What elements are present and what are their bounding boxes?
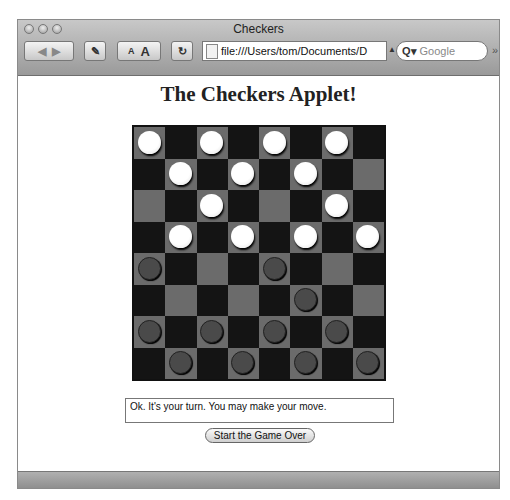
search-icon[interactable]: Q▾	[402, 45, 417, 58]
board-square[interactable]	[322, 127, 353, 159]
black-checker-piece[interactable]	[138, 257, 161, 280]
board-square[interactable]	[322, 253, 353, 285]
reload-button[interactable]: ↻	[171, 41, 193, 61]
white-checker-piece[interactable]	[356, 225, 379, 248]
board-square[interactable]	[353, 348, 384, 380]
board-square[interactable]	[322, 285, 353, 317]
board-square[interactable]	[228, 190, 259, 222]
white-checker-piece[interactable]	[263, 131, 286, 154]
board-square[interactable]	[228, 316, 259, 348]
board-square[interactable]	[197, 127, 228, 159]
board-square[interactable]	[259, 222, 290, 254]
board-square[interactable]	[134, 190, 165, 222]
black-checker-piece[interactable]	[263, 320, 286, 343]
board-square[interactable]	[228, 253, 259, 285]
board-square[interactable]	[197, 253, 228, 285]
board-square[interactable]	[228, 285, 259, 317]
board-square[interactable]	[353, 253, 384, 285]
board-square[interactable]	[165, 316, 196, 348]
board-square[interactable]	[290, 285, 321, 317]
white-checker-piece[interactable]	[169, 225, 192, 248]
board-square[interactable]	[322, 316, 353, 348]
white-checker-piece[interactable]	[294, 225, 317, 248]
board-square[interactable]	[353, 316, 384, 348]
black-checker-piece[interactable]	[200, 320, 223, 343]
board-square[interactable]	[322, 348, 353, 380]
board-square[interactable]	[290, 190, 321, 222]
board-square[interactable]	[197, 316, 228, 348]
start-game-over-button[interactable]: Start the Game Over	[205, 428, 315, 443]
board-square[interactable]	[197, 222, 228, 254]
board-square[interactable]	[353, 127, 384, 159]
board-square[interactable]	[290, 316, 321, 348]
board-square[interactable]	[165, 222, 196, 254]
board-square[interactable]	[228, 127, 259, 159]
white-checker-piece[interactable]	[325, 131, 348, 154]
board-square[interactable]	[134, 285, 165, 317]
board-square[interactable]	[197, 285, 228, 317]
white-checker-piece[interactable]	[325, 194, 348, 217]
board-square[interactable]	[259, 316, 290, 348]
black-checker-piece[interactable]	[263, 257, 286, 280]
white-checker-piece[interactable]	[231, 225, 254, 248]
board-square[interactable]	[259, 253, 290, 285]
text-smaller-icon[interactable]: A	[128, 46, 135, 56]
board-square[interactable]	[259, 190, 290, 222]
black-checker-piece[interactable]	[356, 351, 379, 374]
board-square[interactable]	[134, 348, 165, 380]
board-square[interactable]	[353, 285, 384, 317]
white-checker-piece[interactable]	[169, 162, 192, 185]
board-square[interactable]	[353, 222, 384, 254]
board-square[interactable]	[290, 348, 321, 380]
board-square[interactable]	[322, 159, 353, 191]
board-square[interactable]	[197, 159, 228, 191]
black-checker-piece[interactable]	[169, 351, 192, 374]
board-square[interactable]	[353, 159, 384, 191]
white-checker-piece[interactable]	[200, 131, 223, 154]
white-checker-piece[interactable]	[138, 131, 161, 154]
board-square[interactable]	[134, 253, 165, 285]
board-square[interactable]	[259, 159, 290, 191]
board-square[interactable]	[134, 316, 165, 348]
board-square[interactable]	[197, 190, 228, 222]
board-square[interactable]	[165, 348, 196, 380]
board-square[interactable]	[290, 253, 321, 285]
board-square[interactable]	[290, 159, 321, 191]
text-size-buttons[interactable]: A A	[117, 41, 161, 61]
black-checker-piece[interactable]	[325, 320, 348, 343]
board-square[interactable]	[165, 159, 196, 191]
board-square[interactable]	[290, 127, 321, 159]
board-square[interactable]	[322, 222, 353, 254]
white-checker-piece[interactable]	[294, 162, 317, 185]
board-square[interactable]	[290, 222, 321, 254]
checkers-board[interactable]	[132, 125, 386, 381]
board-square[interactable]	[165, 253, 196, 285]
board-square[interactable]	[197, 348, 228, 380]
board-square[interactable]	[165, 285, 196, 317]
back-forward-buttons[interactable]: ◀ ▶	[24, 41, 74, 61]
black-checker-piece[interactable]	[231, 351, 254, 374]
back-arrow-icon[interactable]: ◀	[38, 45, 46, 58]
white-checker-piece[interactable]	[200, 194, 223, 217]
board-square[interactable]	[134, 127, 165, 159]
board-square[interactable]	[259, 127, 290, 159]
white-checker-piece[interactable]	[231, 162, 254, 185]
board-square[interactable]	[165, 127, 196, 159]
edit-button[interactable]: ✎	[84, 41, 106, 61]
black-checker-piece[interactable]	[138, 320, 161, 343]
black-checker-piece[interactable]	[294, 288, 317, 311]
board-square[interactable]	[259, 348, 290, 380]
board-square[interactable]	[165, 190, 196, 222]
url-field[interactable]: file:///Users/tom/Documents/D	[202, 41, 387, 61]
url-dropdown-icon[interactable]: ▲	[388, 45, 396, 54]
board-square[interactable]	[134, 159, 165, 191]
text-larger-icon[interactable]: A	[141, 44, 150, 59]
board-square[interactable]	[228, 222, 259, 254]
board-square[interactable]	[228, 348, 259, 380]
board-square[interactable]	[134, 222, 165, 254]
toolbar-overflow-icon[interactable]: »	[492, 44, 498, 56]
board-square[interactable]	[353, 190, 384, 222]
board-square[interactable]	[259, 285, 290, 317]
board-square[interactable]	[322, 190, 353, 222]
forward-arrow-icon[interactable]: ▶	[52, 45, 60, 58]
